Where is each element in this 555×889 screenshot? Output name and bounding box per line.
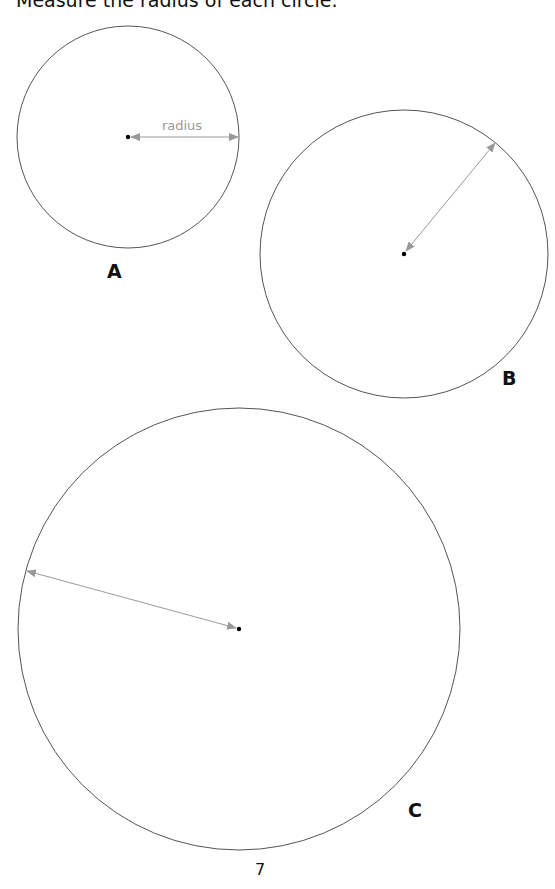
circle-c-label: C: [408, 799, 422, 821]
circle-a-label: A: [107, 260, 122, 282]
circle-b-group: [260, 110, 548, 398]
circle-b-label: B: [502, 367, 516, 389]
page-number: 7: [250, 860, 270, 879]
circle-b-center-dot: [402, 252, 406, 256]
circle-c-radius-arrow: [27, 571, 236, 628]
circle-c-group: [18, 408, 460, 850]
circle-c-center-dot: [237, 627, 241, 631]
circles-diagram: radius: [0, 0, 555, 889]
circle-b-radius-arrow: [406, 143, 495, 251]
circle-a-radius-label: radius: [162, 118, 202, 133]
circle-a-group: radius: [17, 26, 239, 248]
circle-a-center-dot: [126, 135, 130, 139]
